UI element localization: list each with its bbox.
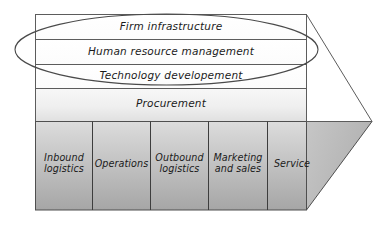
arrow-head-lower (307, 122, 373, 211)
band-firm-infrastructure[interactable] (36, 15, 307, 40)
primary-activities-group (36, 122, 307, 211)
band-human-resource-management[interactable] (36, 40, 307, 65)
band-procurement-group (36, 89, 307, 122)
support-bands-group (36, 15, 307, 89)
value-chain-diagram: Firm infrastructure Human resource manag… (0, 0, 389, 231)
band-procurement[interactable] (36, 89, 307, 122)
value-chain-svg (0, 0, 389, 231)
primary-activities-block (36, 122, 307, 211)
arrow-head-upper (307, 15, 373, 122)
